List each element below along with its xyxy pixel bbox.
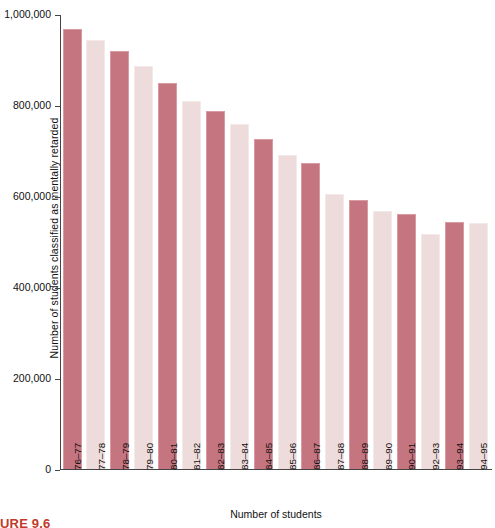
bar[interactable] <box>182 101 201 469</box>
bar-slot: 82–83 <box>204 15 228 469</box>
bar[interactable] <box>158 83 177 469</box>
bar-slot: 83–84 <box>228 15 252 469</box>
x-tick-label: 77–78 <box>96 443 107 470</box>
bar-series: 76–7777–7878–7979–8080–8181–8282–8383–84… <box>61 15 491 469</box>
y-tick: 400,000 <box>55 288 60 289</box>
bar-slot: 93–94 <box>443 15 467 469</box>
y-tick: 200,000 <box>55 379 60 380</box>
x-tick-label: 93–94 <box>454 443 465 470</box>
x-tick-label: 81–82 <box>191 443 202 470</box>
bar-slot: 80–81 <box>157 15 181 469</box>
x-tick-label: 79–80 <box>144 443 155 470</box>
bar[interactable] <box>445 222 464 469</box>
bar-slot: 85–86 <box>276 15 300 469</box>
x-tick-label: 82–83 <box>215 443 226 470</box>
y-axis-title: Number of students classified as mentall… <box>48 78 60 398</box>
bar-slot: 86–87 <box>300 15 324 469</box>
bar[interactable] <box>397 214 416 469</box>
bar[interactable] <box>373 211 392 469</box>
bar-slot: 87–88 <box>324 15 348 469</box>
x-tick-label: 92–93 <box>430 443 441 470</box>
figure-caption: URE 9.6 <box>0 516 51 528</box>
bar-slot: 77–78 <box>85 15 109 469</box>
x-tick-label: 78–79 <box>120 443 131 470</box>
plot-area: 1,000,000800,000600,000400,000200,0000 7… <box>60 15 492 470</box>
x-tick-label: 85–86 <box>287 443 298 470</box>
x-tick-label: 84–85 <box>263 443 274 470</box>
x-tick-label: 80–81 <box>168 443 179 470</box>
y-tick-label: 200,000 <box>13 372 51 384</box>
x-tick-label: 83–84 <box>239 443 250 470</box>
y-tick: 800,000 <box>55 106 60 107</box>
bar[interactable] <box>469 223 488 469</box>
x-tick-label: 89–90 <box>383 443 394 470</box>
bar-slot: 81–82 <box>180 15 204 469</box>
x-tick-label: 90–91 <box>406 443 417 470</box>
bar[interactable] <box>230 124 249 469</box>
figure-container: Number of students classified as mentall… <box>0 0 495 528</box>
bar[interactable] <box>325 194 344 469</box>
x-tick-label: 76–77 <box>72 443 83 470</box>
bar[interactable] <box>206 111 225 469</box>
y-tick-label: 0 <box>45 463 51 475</box>
bar-slot: 89–90 <box>372 15 396 469</box>
x-tick-label: 94–95 <box>478 443 489 470</box>
bar[interactable] <box>421 234 440 469</box>
bar-slot: 78–79 <box>109 15 133 469</box>
y-tick: 1,000,000 <box>55 15 60 16</box>
bar-slot: 76–77 <box>61 15 85 469</box>
bar[interactable] <box>349 200 368 469</box>
y-tick-label: 1,000,000 <box>4 8 51 20</box>
x-tick-label: 87–88 <box>335 443 346 470</box>
bar-slot: 88–89 <box>348 15 372 469</box>
bar-slot: 94–95 <box>467 15 491 469</box>
bar[interactable] <box>134 66 153 469</box>
y-tick: 0 <box>55 470 60 471</box>
y-tick-label: 600,000 <box>13 190 51 202</box>
bar-slot: 79–80 <box>133 15 157 469</box>
bar[interactable] <box>86 40 105 469</box>
bar[interactable] <box>254 139 273 469</box>
bar[interactable] <box>63 29 82 469</box>
bar-slot: 90–91 <box>395 15 419 469</box>
y-tick: 600,000 <box>55 197 60 198</box>
bar[interactable] <box>301 163 320 469</box>
x-axis-title: Number of students <box>60 508 492 520</box>
y-tick-label: 800,000 <box>13 99 51 111</box>
y-tick-label: 400,000 <box>13 281 51 293</box>
bar-slot: 92–93 <box>419 15 443 469</box>
bar-slot: 84–85 <box>252 15 276 469</box>
x-tick-label: 86–87 <box>311 443 322 470</box>
bar[interactable] <box>278 155 297 469</box>
bar[interactable] <box>110 51 129 469</box>
x-tick-label: 88–89 <box>359 443 370 470</box>
